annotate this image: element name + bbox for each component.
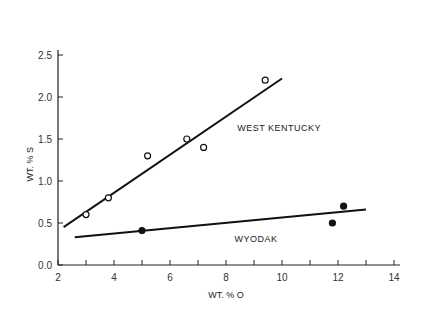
open-data-point [201,144,207,150]
filled-data-point [139,228,145,234]
y-tick-label: 2.0 [38,92,52,103]
fit-line [64,79,282,228]
axes: 24681012140.00.51.01.52.02.5WT. % OWT. %… [25,50,400,300]
x-tick-label: 8 [223,272,229,283]
filled-data-point [329,220,335,226]
x-axis-label: WT. % O [208,290,244,300]
y-tick-label: 0.5 [38,218,52,229]
fit-lines [64,79,366,238]
fit-line [75,210,366,238]
x-tick-label: 12 [332,272,344,283]
open-data-point [105,195,111,201]
filled-data-point [341,203,347,209]
series-annotation: WEST KENTUCKY [237,123,321,133]
y-axis-label: WT. % S [25,147,35,182]
y-tick-label: 0.0 [38,260,52,271]
x-tick-label: 10 [276,272,288,283]
open-data-point [184,136,190,142]
open-data-point [83,212,89,218]
x-tick-label: 4 [111,272,117,283]
series-annotation: WYODAK [234,234,277,244]
y-tick-label: 2.5 [38,50,52,61]
open-data-point [262,77,268,83]
x-tick-label: 6 [167,272,173,283]
x-tick-label: 2 [55,272,61,283]
scatter-chart: 24681012140.00.51.01.52.02.5WT. % OWT. %… [0,0,421,310]
labels: WEST KENTUCKYWYODAK [234,123,321,245]
open-data-point [145,153,151,159]
data-points [83,77,347,233]
y-tick-label: 1.5 [38,134,52,145]
x-tick-label: 14 [388,272,400,283]
y-tick-label: 1.0 [38,176,52,187]
